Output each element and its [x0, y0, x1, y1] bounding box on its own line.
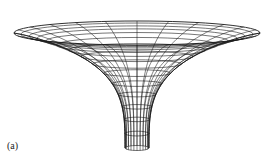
- figure-label: (a): [7, 140, 18, 151]
- meridian-line: [50, 41, 128, 149]
- meridian-line: [143, 23, 199, 146]
- funnel-diagram: [0, 0, 270, 165]
- meridian-line: [105, 21, 134, 145]
- silhouette-line: [149, 33, 260, 148]
- meridian-line: [18, 36, 125, 149]
- meridian-line: [140, 21, 169, 145]
- meridian-line: [76, 43, 132, 150]
- meridian-line: [76, 23, 132, 146]
- funnel-wireframe: [0, 0, 270, 165]
- meridian-line: [145, 41, 223, 149]
- meridian-line: [149, 36, 256, 149]
- silhouette-line: [14, 33, 125, 148]
- meridian-line: [143, 43, 199, 150]
